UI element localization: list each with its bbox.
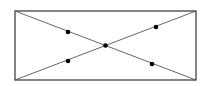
- lower-left-point: [66, 59, 71, 64]
- center-point: [103, 43, 108, 48]
- upper-left-point: [66, 30, 71, 35]
- lower-right-point: [150, 62, 155, 67]
- diagram-canvas: [0, 0, 211, 86]
- upper-right-point: [154, 25, 159, 30]
